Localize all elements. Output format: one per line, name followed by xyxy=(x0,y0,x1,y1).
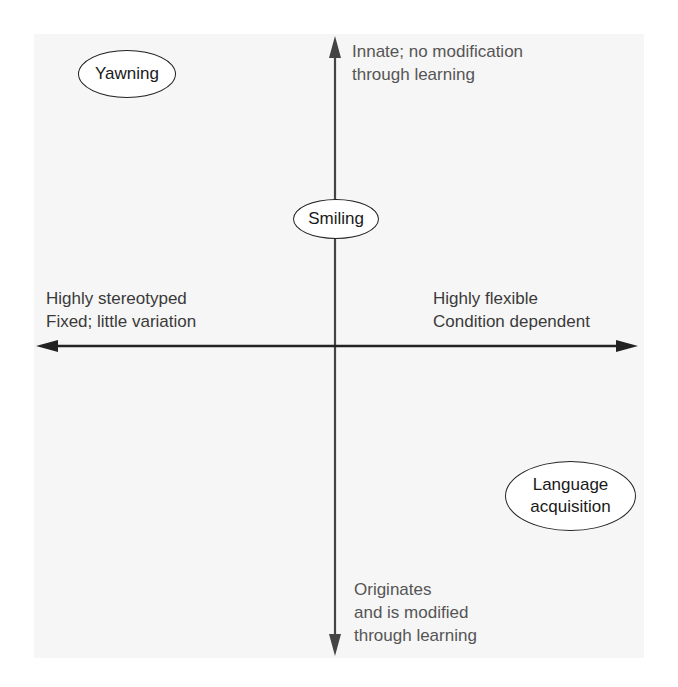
horizontal-left-label: Highly stereotyped Fixed; little variati… xyxy=(46,287,196,333)
item-language-acquisition: Language acquisition xyxy=(505,461,636,531)
axes xyxy=(0,0,678,687)
arrow-up-icon xyxy=(329,36,341,58)
horizontal-right-label: Highly flexible Condition dependent xyxy=(433,287,590,333)
item-yawning: Yawning xyxy=(78,50,176,98)
vertical-bottom-label: Originates and is modified through learn… xyxy=(354,578,477,647)
arrow-left-icon xyxy=(36,340,58,352)
item-smiling: Smiling xyxy=(293,199,379,239)
vertical-top-label: Innate; no modification through learning xyxy=(352,40,523,86)
horizontal-axis xyxy=(36,340,638,352)
arrow-down-icon xyxy=(329,634,341,656)
arrow-right-icon xyxy=(616,340,638,352)
